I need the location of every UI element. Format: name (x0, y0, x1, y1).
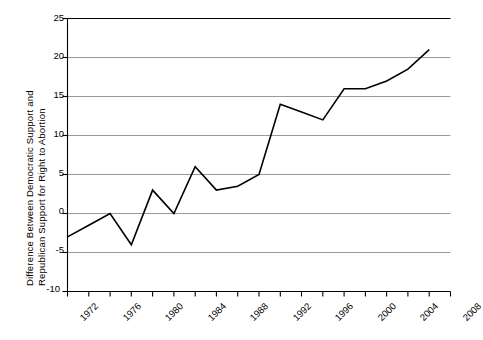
x-axis-ticks (68, 292, 451, 297)
y-axis-ticks (63, 19, 68, 292)
data-series-line (68, 50, 430, 245)
horizontal-gridlines (68, 58, 451, 253)
